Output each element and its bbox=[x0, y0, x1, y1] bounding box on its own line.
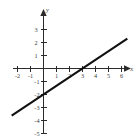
y-tick-label--1: -1 bbox=[34, 78, 39, 85]
x-tick-label-4: 4 bbox=[94, 72, 97, 79]
x-tick-label-1: 1 bbox=[55, 72, 58, 79]
y-tick-label-3: 3 bbox=[34, 26, 37, 33]
y-tick-label--4: -4 bbox=[34, 117, 39, 124]
x-tick-label-3: 3 bbox=[81, 72, 84, 79]
y-tick-label-2: 2 bbox=[34, 39, 37, 46]
coordinate-plane: -2 -1 1 2 3 4 5 6 3 2 1 -1 -2 -3 -4 -5 x… bbox=[0, 0, 137, 136]
x-axis-label: x bbox=[129, 65, 133, 72]
x-tick-label--2: -2 bbox=[15, 72, 20, 79]
graph-figure: -2 -1 1 2 3 4 5 6 3 2 1 -1 -2 -3 -4 -5 x… bbox=[0, 0, 137, 136]
x-tick-label-6: 6 bbox=[120, 72, 123, 79]
x-tick-label--1: -1 bbox=[28, 72, 33, 79]
y-tick-label-1: 1 bbox=[34, 52, 37, 59]
y-tick-label--3: -3 bbox=[34, 104, 39, 111]
y-axis-label: y bbox=[45, 6, 49, 13]
y-tick-label--5: -5 bbox=[34, 130, 39, 136]
x-tick-label-5: 5 bbox=[107, 72, 110, 79]
